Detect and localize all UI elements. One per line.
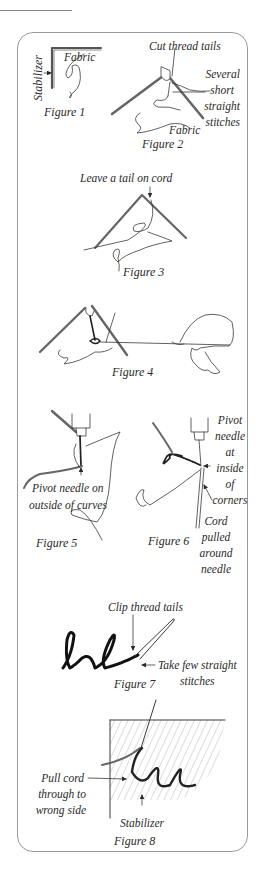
fig6-pivot-label-4: inside (212, 462, 248, 474)
figure-5-drawing (24, 411, 120, 540)
fig6-pivot-label-1: Pivot (212, 414, 248, 426)
fig7-clip-label: Clip thread tails (108, 601, 183, 613)
fig6-pivot-label-2: needle (212, 430, 248, 442)
fig8-pull-label-3: wrong side (30, 804, 86, 816)
figure-1-caption: Figure 1 (44, 106, 85, 118)
fig2-fabric-label: Fabric (169, 124, 200, 136)
fig1-fabric-label: Fabric (64, 51, 95, 63)
fig6-pivot-label-6: corners (212, 494, 248, 506)
figure-8-caption: Figure 8 (114, 835, 155, 847)
figure-4-drawing (40, 306, 233, 374)
fig6-cord-label-3: around (196, 547, 236, 559)
fig2-cut-thread-tails-label: Cut thread tails (149, 40, 221, 52)
figure-4-caption: Figure 4 (112, 366, 153, 378)
figure-7-caption: Figure 7 (114, 678, 155, 690)
fig6-pivot-label-5: of (212, 478, 248, 490)
fig6-cord-label-2: pulled (196, 531, 236, 543)
figure-8-drawing (88, 700, 225, 818)
fig2-stitches-label-1: Several (196, 68, 240, 80)
figure-2-caption: Figure 2 (142, 138, 183, 150)
figure-3-drawing (84, 187, 186, 271)
fig6-cord-label-4: needle (196, 563, 236, 575)
fig2-stitches-label-2: short (196, 84, 234, 96)
fig8-pull-label-1: Pull cord (30, 772, 84, 784)
fig3-leave-tail-label: Leave a tail on cord (80, 172, 172, 184)
fig6-cord-label-1: Cord (196, 515, 236, 527)
figure-6-caption: Figure 6 (148, 535, 189, 547)
fig1-stabilizer-label: Stabilizer (32, 55, 44, 101)
figure-6-drawing (136, 418, 212, 528)
fig6-pivot-label-3: at (212, 446, 248, 458)
fig2-stitches-label-3: straight (196, 100, 240, 112)
figure-3-caption: Figure 3 (123, 266, 164, 278)
fig8-stabilizer-label: Stabilizer (120, 817, 164, 829)
fig5-pivot-label-2: outside of curves (29, 499, 107, 511)
fig5-pivot-label-1: Pivot needle on (32, 482, 104, 494)
fig7-take-label-2: stitches (180, 675, 215, 687)
fig2-stitches-label-4: stitches (196, 116, 240, 128)
fig8-pull-label-2: through to (30, 788, 86, 800)
fig7-take-label-1: Take few straight (158, 659, 237, 671)
figure-5-caption: Figure 5 (36, 537, 77, 549)
